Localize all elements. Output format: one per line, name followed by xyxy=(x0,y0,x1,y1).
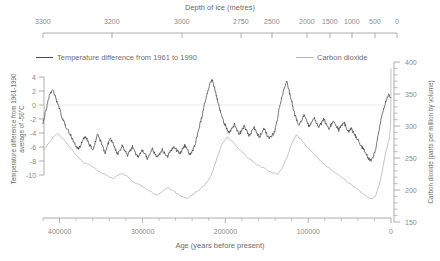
axis-tick-label: 400000 xyxy=(48,228,71,235)
axis-tick-label: 100000 xyxy=(297,228,320,235)
axis-tick-label: 300000 xyxy=(131,228,154,235)
ice-core-chart: Depth of ice (metres) 330032003000275025… xyxy=(0,0,440,261)
bottom-axis-title: Age (years before present) xyxy=(0,242,440,250)
bottom-axis-tick-labels: 4000003000002000001000000 xyxy=(0,228,440,238)
axis-tick-label: 0 xyxy=(389,228,393,235)
axis-tick-label: 200000 xyxy=(214,228,237,235)
